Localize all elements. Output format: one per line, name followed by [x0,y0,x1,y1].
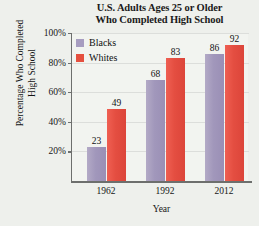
y-tick-label-20: 20% [49,146,66,156]
bar-2012-blacks[interactable]: 86 [205,54,224,181]
legend-item-blacks[interactable]: Blacks [76,36,146,49]
bar-2012-whites[interactable]: 92 [225,45,244,181]
y-tick-mark-100 [68,33,72,34]
bar-chart: U.S. Adults Ages 25 or Older Who Complet… [0,0,259,226]
bar-value-1992-whites: 83 [171,47,181,57]
y-tick-mark-40 [68,122,72,123]
bar-1992-whites[interactable]: 83 [166,58,185,181]
y-tick-label-40: 40% [49,117,66,127]
gridline-100 [72,33,249,34]
x-axis-line [71,181,252,183]
y-tick-label-80: 80% [49,58,66,68]
y-tick-mark-20 [68,151,72,152]
bar-value-1962-blacks: 23 [92,136,102,146]
y-axis-title: Percentage Who Completed High School [15,0,45,158]
chart-title: U.S. Adults Ages 25 or Older Who Complet… [62,2,257,26]
x-tick-label-1962: 1962 [97,186,116,196]
y-axis-title-line-1: Percentage Who Completed [15,0,27,158]
x-tick-label-1992: 1992 [156,186,175,196]
legend-label-whites: Whites [89,52,117,63]
legend-label-blacks: Blacks [89,37,116,48]
y-tick-mark-80 [68,63,72,64]
chart-legend: Blacks Whites [76,36,146,66]
y-tick-mark-60 [68,92,72,93]
bar-value-1992-blacks: 68 [151,69,161,79]
x-tick-label-2012: 2012 [215,186,234,196]
chart-title-line-2: Who Completed High School [62,14,257,26]
bar-1992-blacks[interactable]: 68 [146,80,165,181]
legend-item-whites[interactable]: Whites [76,51,146,64]
legend-swatch-whites-icon [76,54,84,62]
bar-value-1962-whites: 49 [112,98,122,108]
bar-1962-blacks[interactable]: 23 [87,147,106,181]
bar-value-2012-whites: 92 [230,34,240,44]
y-axis-title-line-2: High School [27,0,39,158]
legend-swatch-blacks-icon [76,39,84,47]
y-tick-label-60: 60% [49,87,66,97]
bar-value-2012-blacks: 86 [210,43,220,53]
x-axis-title: Year [71,204,252,214]
bar-1962-whites[interactable]: 49 [107,109,126,182]
y-tick-label-100: 100% [44,28,66,38]
chart-title-line-1: U.S. Adults Ages 25 or Older [62,2,257,14]
